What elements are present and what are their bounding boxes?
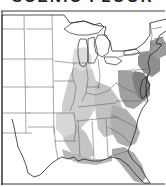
map-graphic: [0, 9, 166, 187]
distribution-shading-layer: [56, 37, 166, 183]
state-line-mn-ia: [54, 61, 72, 63]
coast-texas-and-mexico-border: [12, 119, 58, 177]
figure-title: SCENIC FLOOR: [12, 0, 154, 4]
figure-title-strip: SCENIC FLOOR: [0, 0, 166, 9]
state-line-tx-la: [54, 127, 58, 159]
state-line-dakota-col: [52, 15, 54, 133]
shading-atlantic-coastal-plain: [110, 105, 140, 147]
lake-erie-outline: [104, 57, 122, 65]
figure-container: SCENIC FLOOR: [0, 0, 166, 187]
state-line-west-col: [24, 15, 26, 133]
border-canada: [2, 15, 166, 51]
map-panel: [0, 9, 166, 187]
